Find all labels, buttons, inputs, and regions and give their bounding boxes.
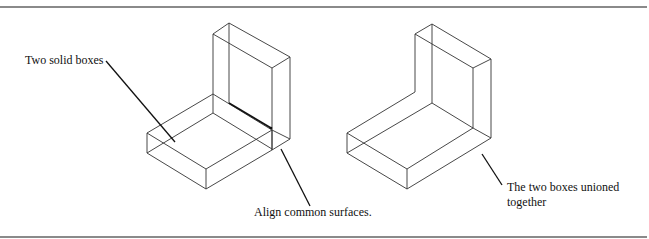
tall-box-left — [213, 23, 290, 150]
alignment-point — [270, 127, 273, 130]
label-union-line2: together — [507, 195, 546, 210]
diagram-canvas — [0, 0, 649, 239]
label-align-common-surfaces: Align common surfaces. — [254, 205, 372, 220]
right-union-solid — [347, 24, 502, 189]
label-two-solid-boxes: Two solid boxes — [25, 53, 104, 68]
flat-box-left — [147, 94, 272, 189]
leader-align — [281, 149, 310, 206]
leader-union — [482, 154, 502, 185]
left-two-boxes — [106, 23, 310, 206]
label-union-line1: The two boxes unioned — [507, 180, 619, 195]
leader-two-boxes — [106, 61, 175, 142]
